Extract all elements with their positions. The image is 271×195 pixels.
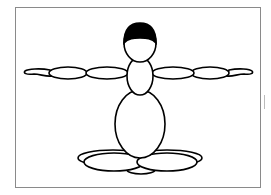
right-forearm (191, 67, 229, 79)
right-upper-arm (152, 67, 194, 79)
figure-drawing (0, 0, 271, 195)
left-hand (24, 69, 52, 76)
left-upper-arm (86, 67, 128, 79)
left-forearm (49, 67, 87, 79)
right-hand (227, 69, 253, 76)
lower-body (115, 90, 165, 158)
